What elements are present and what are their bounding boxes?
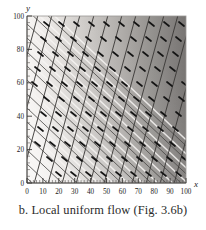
plot-area: 0 20 40 60 80 100	[0, 0, 206, 200]
y-tick-label: 60	[17, 79, 25, 87]
y-axis-label: y	[25, 3, 30, 13]
local-uniform-flow-plot: 0 20 40 60 80 100	[0, 0, 206, 200]
y-tick-label: 100	[13, 13, 24, 21]
y-tick-label: 40	[17, 113, 25, 121]
x-tick-label: 70	[135, 188, 143, 196]
x-axis-label: x	[193, 179, 198, 189]
y-tick-label: 80	[17, 46, 25, 54]
y-tick-label: 0	[20, 180, 24, 188]
x-tick-label: 10	[39, 188, 47, 196]
x-tick-label: 50	[103, 188, 111, 196]
figure-panel: 0 20 40 60 80 100	[0, 0, 206, 230]
x-tick-label: 90	[167, 188, 175, 196]
x-tick-label: 60	[119, 188, 127, 196]
y-tick-label: 20	[17, 146, 25, 154]
figure-caption: b. Local uniform flow (Fig. 3.6b)	[0, 203, 206, 218]
x-tick-label: 100	[181, 188, 192, 196]
x-tick-label: 40	[87, 188, 95, 196]
x-tick-label: 80	[151, 188, 159, 196]
x-tick-label: 20	[55, 188, 63, 196]
x-tick-label: 30	[71, 188, 79, 196]
x-tick-label: 0	[25, 188, 29, 196]
